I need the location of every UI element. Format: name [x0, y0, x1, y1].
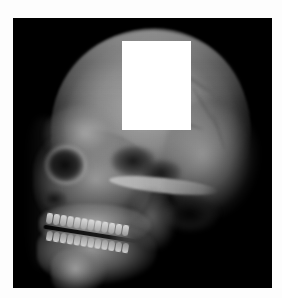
vascular-marking [211, 112, 226, 151]
tooth [122, 225, 130, 237]
zygomatic-arch [109, 172, 220, 198]
mental-protuberance [51, 250, 109, 288]
orbital-socket [46, 148, 84, 182]
tooth [122, 243, 129, 254]
orbital-rim [42, 142, 90, 188]
soft-tissue-profile [25, 118, 65, 268]
radiograph-film [13, 18, 272, 288]
maxillary-sinus [111, 146, 155, 176]
vascular-marking [191, 86, 219, 128]
frontal-bone [43, 106, 119, 166]
nasal-cavity [41, 190, 67, 208]
sphenoid-sinus [141, 160, 181, 186]
radiograph-viewport [0, 0, 282, 298]
mandibular-ramus [127, 185, 181, 253]
redaction-patch [122, 41, 191, 130]
external-auditory-meatus [163, 196, 219, 232]
